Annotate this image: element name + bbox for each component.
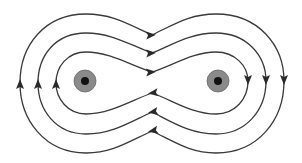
- conductor-left: [74, 70, 96, 92]
- arrow-left-icon: [147, 88, 158, 97]
- arrow-right-icon: [146, 68, 157, 77]
- current-out-dot-icon: [214, 77, 222, 85]
- arrow-left-icon: [147, 126, 158, 136]
- conductor-right: [207, 70, 229, 92]
- current-out-dot-icon: [81, 77, 89, 85]
- field-loop-middle: [38, 33, 266, 134]
- arrow-right-icon: [146, 49, 157, 58]
- arrow-right-icon: [146, 31, 157, 40]
- field-lines-diagram: [0, 0, 302, 163]
